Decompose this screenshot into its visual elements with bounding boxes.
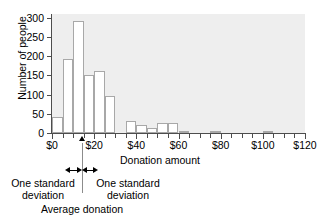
y-axis-tick-label: 300	[26, 13, 44, 24]
x-axis-minor-tick	[168, 134, 169, 138]
sd-left-caption: One standard deviation	[2, 177, 84, 201]
x-axis-minor-tick	[294, 134, 295, 138]
sd-left-caption-line2: deviation	[2, 189, 84, 201]
y-axis-tick-label: 150	[26, 70, 44, 81]
histogram-bar	[136, 125, 147, 133]
histogram-bar	[94, 71, 105, 133]
x-axis-minor-tick	[147, 134, 148, 138]
x-axis-tick-label: $100	[243, 140, 283, 151]
y-axis-tick	[47, 114, 52, 115]
y-axis-tick-label: 200	[26, 51, 44, 62]
x-axis-minor-tick	[126, 134, 127, 138]
sd-right-caption-line1: One standard	[84, 177, 172, 189]
y-axis-tick	[47, 18, 52, 19]
x-axis-tick-label: $80	[201, 140, 241, 151]
x-axis-minor-tick	[242, 134, 243, 138]
x-axis-minor-tick	[73, 134, 74, 138]
x-axis-minor-tick	[105, 134, 106, 138]
y-axis-tick	[47, 37, 52, 38]
x-axis-tick-label: $0	[32, 140, 72, 151]
x-axis-minor-tick	[115, 134, 116, 138]
histogram-bar	[63, 59, 74, 133]
x-axis-tick-label: $120	[285, 140, 325, 151]
x-axis-minor-tick	[284, 134, 285, 138]
y-axis-tick-label: 0	[38, 128, 44, 139]
x-axis-minor-tick	[189, 134, 190, 138]
sd-right-caption-line2: deviation	[84, 189, 172, 201]
sd-right-caption: One standard deviation	[84, 177, 172, 201]
y-axis-line	[51, 14, 52, 134]
histogram-bar	[105, 96, 116, 133]
histogram-bar	[168, 123, 179, 133]
y-axis-tick-label: 250	[26, 32, 44, 43]
x-axis-tick-label: $20	[74, 140, 114, 151]
sd-left-caption-line1: One standard	[2, 177, 84, 189]
histogram-bar	[84, 75, 95, 133]
y-axis-tick	[47, 75, 52, 76]
histogram-bar	[157, 123, 168, 133]
histogram-bar	[73, 21, 84, 133]
y-axis-tick-label: 50	[32, 109, 44, 120]
plot-area	[52, 14, 305, 133]
x-axis-minor-tick	[252, 134, 253, 138]
histogram-figure: Number of people Donation amount One sta…	[0, 0, 327, 222]
y-axis-tick	[47, 95, 52, 96]
one-standard-deviation-left-arrow-icon	[65, 167, 82, 174]
x-axis-minor-tick	[157, 134, 158, 138]
x-axis-minor-tick	[200, 134, 201, 138]
x-axis-minor-tick	[210, 134, 211, 138]
x-axis-minor-tick	[63, 134, 64, 138]
x-axis-tick-label: $60	[159, 140, 199, 151]
x-axis-title: Donation amount	[120, 154, 200, 166]
x-axis-minor-tick	[84, 134, 85, 138]
x-axis-minor-tick	[231, 134, 232, 138]
arrowhead-right-icon	[93, 167, 98, 173]
histogram-bar	[52, 117, 63, 133]
x-axis-minor-tick	[273, 134, 274, 138]
y-axis-tick	[47, 56, 52, 57]
x-axis-tick-label: $40	[116, 140, 156, 151]
average-donation-caption: Average donation	[22, 203, 142, 215]
one-standard-deviation-right-arrow-icon	[82, 167, 99, 174]
y-axis-tick-label: 100	[26, 90, 44, 101]
histogram-bar	[126, 121, 137, 133]
